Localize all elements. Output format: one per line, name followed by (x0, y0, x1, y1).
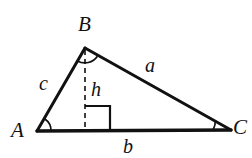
side-a-line (85, 48, 231, 130)
vertex-label-b: B (78, 14, 91, 35)
vertex-label-c: C (233, 117, 247, 138)
side-label-b: b (123, 136, 133, 156)
triangle-figure: A B C a b c h (0, 0, 252, 158)
side-b-line (37, 130, 231, 131)
altitude-label-h: h (91, 79, 101, 99)
angle-arc-a (45, 119, 51, 131)
vertex-label-a: A (11, 120, 24, 141)
right-angle-marker (85, 106, 110, 131)
side-label-c: c (39, 73, 48, 93)
side-label-a: a (145, 55, 155, 75)
